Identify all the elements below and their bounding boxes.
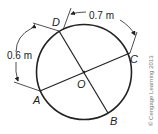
point-label-D: D [52, 16, 60, 28]
extension-line-A-left [14, 82, 40, 91]
extension-line-C-top [130, 32, 137, 53]
dimension-arc-0.7-left [71, 12, 86, 14]
copyright-text: © Cengage Learning 2013 [148, 55, 154, 126]
point-label-O: O [77, 78, 86, 90]
dimension-arc-0.7-right [120, 20, 135, 35]
dimension-arc-0.6-lower [16, 62, 18, 81]
circle-diagram: 0.6 m 0.7 m D C A B O © Cengage Learning… [0, 0, 158, 134]
point-label-B: B [110, 115, 117, 127]
dimension-label-0.7: 0.7 m [89, 10, 114, 21]
point-label-A: A [32, 94, 40, 106]
point-label-C: C [130, 53, 138, 65]
dimension-arc-0.6 [16, 28, 32, 52]
dimension-label-0.6: 0.6 m [7, 50, 32, 61]
center-point [83, 71, 86, 74]
